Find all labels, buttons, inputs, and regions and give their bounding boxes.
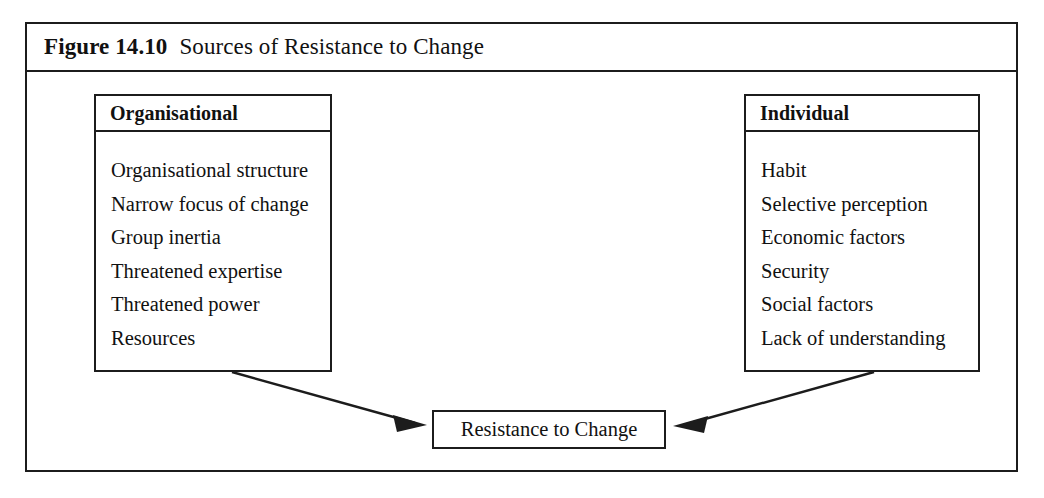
- list-item: Group inertia: [111, 221, 330, 255]
- outcome-label: Resistance to Change: [461, 418, 637, 441]
- individual-heading: Individual: [746, 96, 978, 132]
- list-item: Social factors: [761, 288, 978, 322]
- list-item: Organisational structure: [111, 154, 330, 188]
- individual-box: Individual Habit Selective perception Ec…: [744, 94, 980, 372]
- list-item: Lack of understanding: [761, 322, 978, 356]
- organisational-heading: Organisational: [96, 96, 330, 132]
- list-item: Habit: [761, 154, 978, 188]
- list-item: Security: [761, 255, 978, 289]
- list-item: Narrow focus of change: [111, 188, 330, 222]
- individual-item-list: Habit Selective perception Economic fact…: [746, 132, 978, 355]
- organisational-box: Organisational Organisational structure …: [94, 94, 332, 372]
- outcome-box: Resistance to Change: [432, 410, 666, 449]
- figure-caption: Figure 14.10 Sources of Resistance to Ch…: [27, 24, 1016, 72]
- figure-container: Figure 14.10 Sources of Resistance to Ch…: [0, 0, 1044, 498]
- figure-number: Figure 14.10: [44, 34, 167, 60]
- figure-title: Sources of Resistance to Change: [179, 34, 484, 60]
- figure-frame: Figure 14.10 Sources of Resistance to Ch…: [25, 22, 1018, 472]
- arrow-individual-to-outcome: [673, 372, 874, 433]
- arrow-organisational-to-outcome: [232, 372, 427, 432]
- list-item: Selective perception: [761, 188, 978, 222]
- list-item: Threatened power: [111, 288, 330, 322]
- list-item: Threatened expertise: [111, 255, 330, 289]
- list-item: Resources: [111, 322, 330, 356]
- list-item: Economic factors: [761, 221, 978, 255]
- organisational-item-list: Organisational structure Narrow focus of…: [96, 132, 330, 355]
